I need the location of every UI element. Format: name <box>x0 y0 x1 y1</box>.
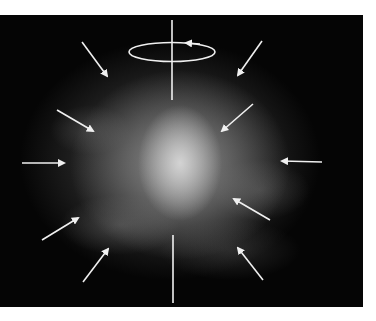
arrow-lower-right-icon <box>234 199 270 220</box>
arrow-upper-right-icon <box>222 104 253 131</box>
annotation-overlay <box>0 0 376 321</box>
rotation-arrow-icon <box>186 43 200 44</box>
arrow-bottom-left-icon <box>83 249 108 282</box>
arrow-lower-left-icon <box>42 218 78 240</box>
arrow-upper-left-icon <box>57 110 93 131</box>
arrow-bottom-right-icon <box>238 248 263 280</box>
arrow-right-icon <box>282 161 322 162</box>
arrow-top-right-icon <box>238 41 262 75</box>
arrow-top-left-icon <box>82 42 107 76</box>
